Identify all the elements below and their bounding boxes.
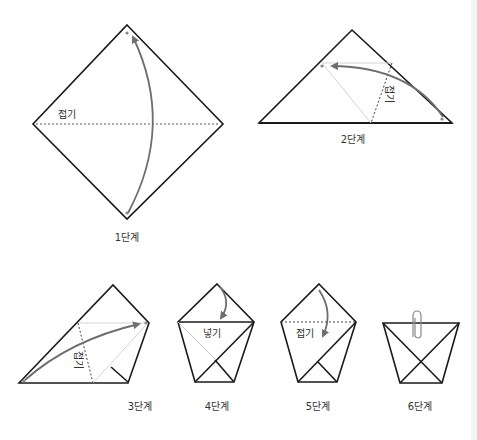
step-3-fold-label: 접기 xyxy=(72,351,87,369)
fold-arrow-icon xyxy=(128,37,153,213)
step-5-diagram xyxy=(281,284,356,382)
paperclip-icon xyxy=(413,311,421,338)
target-dot xyxy=(144,321,147,324)
step-1-label: 1단계 xyxy=(115,229,139,244)
fold-arrow-icon xyxy=(319,290,328,336)
step-4-fold-label: 넣기 xyxy=(203,325,221,340)
step-1-fold-label: 접기 xyxy=(58,106,76,121)
step-5-label: 5단계 xyxy=(306,398,330,413)
source-dot xyxy=(125,211,128,214)
step-6-label: 6단계 xyxy=(408,398,432,413)
source-dot xyxy=(440,117,443,120)
step-1-diagram xyxy=(33,25,223,219)
square-paper xyxy=(33,25,223,219)
target-dot xyxy=(320,64,323,67)
target-dot xyxy=(125,31,128,34)
step-6-diagram xyxy=(383,311,459,383)
crease-edge xyxy=(111,367,128,382)
step-2-label: 2단계 xyxy=(341,131,365,146)
step-4-label: 4단계 xyxy=(205,398,229,413)
step-2-diagram xyxy=(259,30,452,123)
origami-diagram xyxy=(0,0,477,440)
step-3-label: 3단계 xyxy=(128,398,152,413)
step-2-fold-label: 접기 xyxy=(383,85,398,103)
guide-line xyxy=(322,63,371,123)
source-dot xyxy=(22,379,25,382)
triangle-paper xyxy=(259,30,452,123)
step-5-fold-label: 접기 xyxy=(296,325,314,340)
